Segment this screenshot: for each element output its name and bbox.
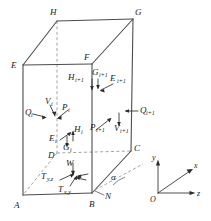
label-T-yz: T y,z [41,171,54,182]
inclination-reference-line [95,164,143,190]
label-Q-i-sub: i [31,112,33,118]
label-H-i: H i [73,124,83,135]
edge-EF [23,64,92,65]
vertex-label-E: E [10,60,17,70]
vertex-label-A: A [13,200,20,210]
label-Q-i1-sub: i+1 [146,110,155,116]
label-E-i1: E i+1 [109,73,126,84]
label-P-i: P i [61,102,70,113]
label-V-i: V i [45,96,53,107]
label-alpha-base: α [111,172,116,182]
label-H-i1-base: H [67,72,75,82]
vertex-label-F: F [83,52,90,62]
vector-H-i1 [90,79,94,91]
label-G-i-sub: i [70,147,72,153]
vector-Q-i [33,114,47,120]
force-labels-group: V i P i Q i Q i+1 V i+1 P i+1 [25,67,155,201]
label-W-base: W [66,158,75,168]
edge-HG [57,19,133,21]
label-E-i-base: E [48,133,55,143]
label-V-i1-sub: i+1 [120,128,129,134]
axis-arrow-z [190,191,196,195]
edge-EH [23,21,57,65]
axis-label-x: x [193,161,198,170]
figure-canvas: H G E F D C A B V i P i Q i Q [0,0,211,221]
axis-label-origin: O [150,195,156,204]
label-P-i1: P i+1 [89,122,105,133]
label-T-xy-sub: x,y [63,189,71,195]
label-G-i-base: G [63,142,70,152]
label-N-base: N [104,191,112,201]
label-G-i: G i [63,142,72,153]
axis-label-y: y [151,153,156,162]
cuboid-free-body-diagram: H G E F D C A B V i P i Q i Q [0,0,211,221]
label-P-i1-sub: i+1 [96,127,105,133]
vertex-label-D: D [47,150,55,160]
label-Q-i1: Q i+1 [140,105,155,116]
vertex-label-H: H [49,7,57,17]
vector-T-yz [60,173,75,180]
vector-E-i [60,132,72,140]
label-G-i1-sub: i+1 [99,72,108,78]
label-H-i-base: H [73,124,81,134]
label-H-i1-sub: i+1 [75,77,84,83]
axis-line-x [158,171,190,193]
label-T-yz-sub: y,z [46,176,54,182]
label-T-xy: T x,y [58,184,71,195]
label-H-i1: H i+1 [67,72,84,83]
solid-edges-group [23,19,133,195]
label-P-i-sub: i [68,107,70,113]
label-Q-i: Q i [25,107,33,118]
axis-arrow-y [156,160,160,166]
label-P-i1-base: P [89,122,96,132]
label-H-i-sub: i [81,129,83,135]
vertex-label-G: G [135,7,142,17]
vector-E-i1 [100,84,114,93]
label-E-i1-sub: i+1 [117,78,126,84]
label-P-i-base: P [61,102,68,112]
label-G-i1: G i+1 [92,67,108,78]
coordinate-triad-group: y x z O [150,153,201,204]
vector-G-i1 [96,79,100,90]
vector-T-xy [70,176,77,186]
label-E-i: E i [48,133,57,144]
vertex-label-C: C [134,143,141,153]
label-N: N [104,191,112,201]
label-W: W [66,158,75,168]
label-E-i1-base: E [109,73,116,83]
label-G-i1-base: G [92,67,99,77]
label-V-i-sub: i [51,101,53,107]
edge-GC [131,19,133,151]
vertex-label-B: B [89,199,95,209]
label-V-i1: V i+1 [114,123,129,134]
label-alpha: α [111,172,116,182]
axis-label-z: z [196,189,201,198]
edge-FG [92,19,133,64]
